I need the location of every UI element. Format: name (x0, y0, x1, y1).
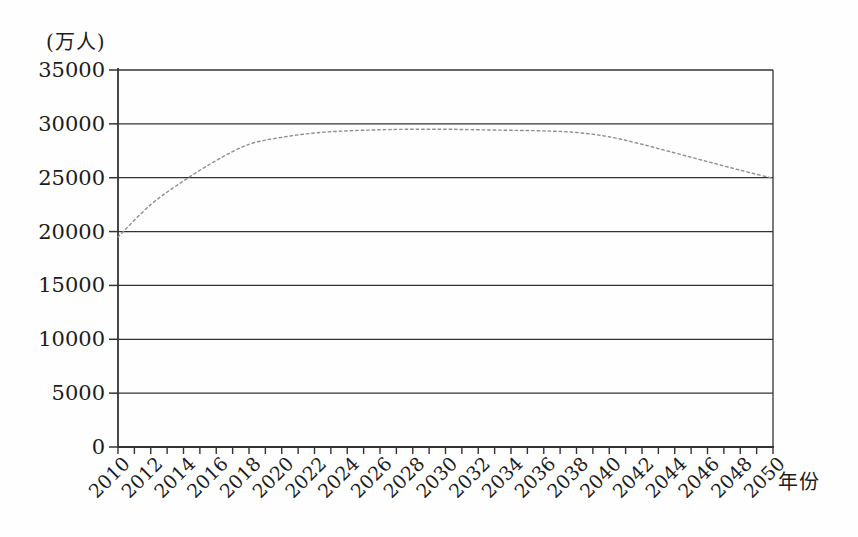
y-tick-label: 0 (92, 435, 105, 459)
y-tick-label: 25000 (38, 166, 105, 190)
y-tick-label: 30000 (38, 112, 105, 136)
x-axis-unit-label: 年份 (778, 466, 820, 495)
y-tick-label: 5000 (52, 381, 105, 405)
y-tick-label: 15000 (38, 273, 105, 297)
y-tick-label: 20000 (38, 220, 105, 244)
population-projection-chart: (万人) 05000100001500020000250003000035000… (0, 0, 858, 537)
y-tick-label: 10000 (38, 327, 105, 351)
chart-canvas: 0500010000150002000025000300003500020102… (0, 0, 858, 537)
y-tick-label: 35000 (38, 58, 105, 82)
series-line (118, 129, 773, 237)
